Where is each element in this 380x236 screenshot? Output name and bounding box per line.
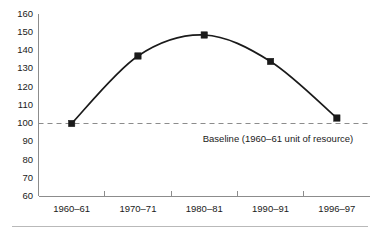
y-axis: 60708090100110120130140150160 xyxy=(17,8,38,202)
y-axis-tick-label: 100 xyxy=(17,117,33,128)
y-axis-tick-label: 120 xyxy=(17,81,33,92)
y-axis-tick-label: 60 xyxy=(22,190,33,201)
x-axis-tick-label: 1990–91 xyxy=(252,203,289,214)
series-markers xyxy=(68,32,340,127)
series-data-point xyxy=(68,120,74,126)
y-axis-tick-label: 80 xyxy=(22,154,33,165)
y-axis-tick-label: 160 xyxy=(17,8,33,19)
y-axis-tick-label: 110 xyxy=(18,99,33,110)
y-axis-tick-label: 150 xyxy=(17,26,33,37)
baseline-annotation: Baseline (1960–61 unit of resource) xyxy=(39,124,371,145)
baseline-label: Baseline (1960–61 unit of resource) xyxy=(203,133,354,144)
y-axis-tick-label: 70 xyxy=(22,172,33,183)
x-axis-tick-label: 1960–61 xyxy=(53,203,90,214)
series-data-point xyxy=(334,115,340,121)
y-axis-tick-label: 130 xyxy=(17,62,33,73)
x-axis-tick-labels: 1960–611970–711980–811990–911996–97 xyxy=(53,203,355,214)
line-chart: 60708090100110120130140150160 1960–61197… xyxy=(0,0,380,236)
x-axis-tick-label: 1980–81 xyxy=(186,203,223,214)
x-axis-tick-label: 1970–71 xyxy=(119,203,156,214)
y-axis-tick-label: 90 xyxy=(22,135,33,146)
series-data-point xyxy=(135,53,141,59)
x-axis-tick-label: 1996–97 xyxy=(318,203,355,214)
data-series xyxy=(68,32,340,127)
series-line xyxy=(72,35,337,124)
series-data-point xyxy=(201,32,207,38)
x-axis: 1960–611970–711980–811990–911996–97 xyxy=(39,191,371,214)
x-axis-tick-marks xyxy=(105,191,304,197)
series-data-point xyxy=(267,58,273,64)
chart-canvas: 60708090100110120130140150160 1960–61197… xyxy=(0,0,380,236)
y-axis-tick-label: 140 xyxy=(17,44,33,55)
y-axis-tick-labels: 60708090100110120130140150160 xyxy=(17,8,33,202)
